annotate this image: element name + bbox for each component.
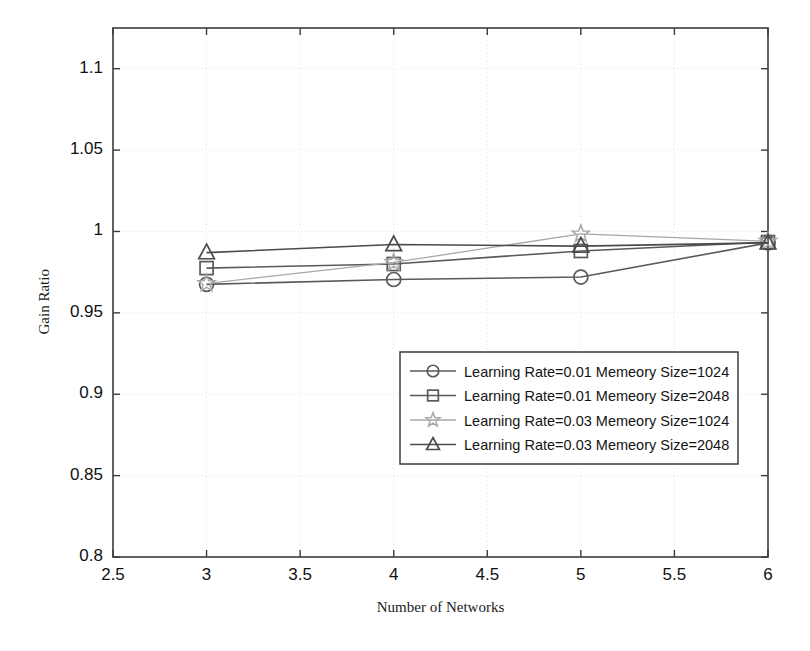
x-tick-label: 4 xyxy=(354,565,434,585)
x-axis-title: Number of Networks xyxy=(291,599,591,616)
y-tick-label: 1.05 xyxy=(19,139,103,159)
chart-plot-area: Learning Rate=0.01 Memeory Size=1024Lear… xyxy=(0,0,810,651)
y-tick-label: 1.1 xyxy=(19,58,103,78)
legend-label: Learning Rate=0.03 Memeory Size=2048 xyxy=(464,437,729,453)
x-tick-label: 6 xyxy=(728,565,808,585)
plot-background xyxy=(113,28,768,557)
x-tick-label: 4.5 xyxy=(447,565,527,585)
y-tick-label: 0.9 xyxy=(19,383,103,403)
x-tick-label: 3 xyxy=(167,565,247,585)
x-tick-label: 5.5 xyxy=(634,565,714,585)
x-tick-label: 2.5 xyxy=(73,565,153,585)
x-tick-label: 3.5 xyxy=(260,565,340,585)
legend-label: Learning Rate=0.01 Memeory Size=2048 xyxy=(464,388,729,404)
x-tick-label: 5 xyxy=(541,565,621,585)
gridlines xyxy=(113,28,768,557)
legend[interactable]: Learning Rate=0.01 Memeory Size=1024Lear… xyxy=(400,352,738,464)
legend-label: Learning Rate=0.03 Memeory Size=1024 xyxy=(464,413,729,429)
y-tick-label: 1 xyxy=(19,220,103,240)
y-tick-label: 0.8 xyxy=(19,546,103,566)
legend-label: Learning Rate=0.01 Memeory Size=1024 xyxy=(464,364,729,380)
y-tick-label: 0.95 xyxy=(19,302,103,322)
y-tick-label: 0.85 xyxy=(19,465,103,485)
figure-container: Gain Ratio Number of Networks Learning R… xyxy=(0,0,810,651)
